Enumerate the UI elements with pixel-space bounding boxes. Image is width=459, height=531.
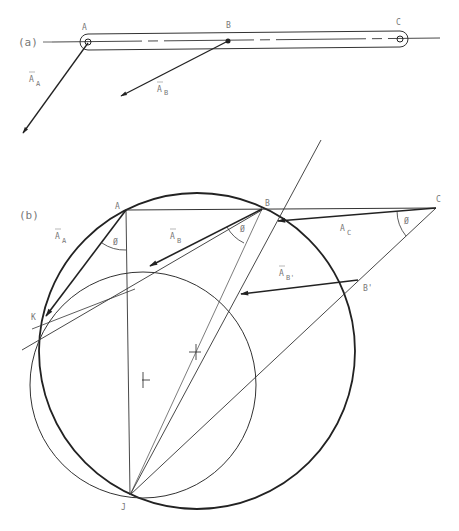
- svg-text:A: A: [36, 80, 41, 88]
- angle-phi-c: Ø: [404, 216, 409, 226]
- angle-phi-b: Ø: [240, 224, 245, 234]
- panel-a-label: (a): [18, 36, 38, 49]
- vector-a-a-arrow: [23, 43, 88, 133]
- point-a-label: A: [115, 202, 120, 211]
- vector-a-a-label: A A: [29, 72, 41, 88]
- joint-c: [397, 36, 403, 42]
- vector-a-bprime-label: A B': [279, 266, 294, 282]
- svg-text:A: A: [29, 75, 34, 84]
- point-b-label: B: [265, 199, 270, 208]
- svg-text:B': B': [286, 274, 294, 282]
- small-circle-center-mark: [189, 344, 201, 360]
- vector-a-c-label: A C: [340, 224, 351, 237]
- vector-a-b-label: A B: [157, 82, 168, 97]
- vector-a-a-arrow: [46, 210, 126, 316]
- line-j-extended: [130, 140, 321, 495]
- panel-a: (a) A B C A A A B: [18, 18, 440, 133]
- large-circle-center-mark: [142, 372, 150, 388]
- link-center-line: [52, 38, 440, 42]
- tangent-at-k: [32, 289, 135, 329]
- point-k-label: K: [31, 313, 36, 322]
- line-j-c: [130, 208, 436, 495]
- kinematics-diagram: (a) A B C A A A B (b): [0, 0, 459, 531]
- point-b-label: B: [226, 21, 231, 30]
- vector-a-c-arrow: [278, 208, 436, 221]
- svg-text:A: A: [157, 85, 162, 94]
- vector-a-b-label: A B: [170, 229, 181, 245]
- panel-b: (b) Ø Ø Ø: [19, 140, 441, 512]
- svg-text:B: B: [164, 89, 168, 97]
- link-body: [80, 31, 408, 50]
- point-c-label: C: [436, 195, 441, 204]
- large-circle: [39, 193, 355, 509]
- line-a-j: [126, 210, 130, 495]
- svg-text:A: A: [279, 269, 284, 278]
- point-a-label: A: [82, 23, 87, 32]
- line-k-b: [22, 210, 262, 350]
- svg-text:C: C: [347, 229, 351, 237]
- vector-a-bprime-arrow: [241, 280, 358, 294]
- panel-b-label: (b): [19, 209, 39, 222]
- point-bprime-label: B': [363, 284, 373, 293]
- angle-phi-a: Ø: [113, 237, 118, 247]
- vector-a-b-arrow: [150, 209, 262, 266]
- point-j-label: J: [121, 503, 126, 512]
- svg-text:A: A: [62, 237, 67, 245]
- svg-text:A: A: [170, 232, 175, 241]
- point-c-label: C: [396, 18, 401, 27]
- svg-text:A: A: [340, 224, 345, 233]
- line-j-b: [130, 209, 262, 495]
- svg-text:B: B: [177, 237, 181, 245]
- line-a-c: [126, 208, 436, 210]
- vector-a-a-label: A A: [55, 229, 67, 245]
- svg-text:A: A: [55, 232, 60, 241]
